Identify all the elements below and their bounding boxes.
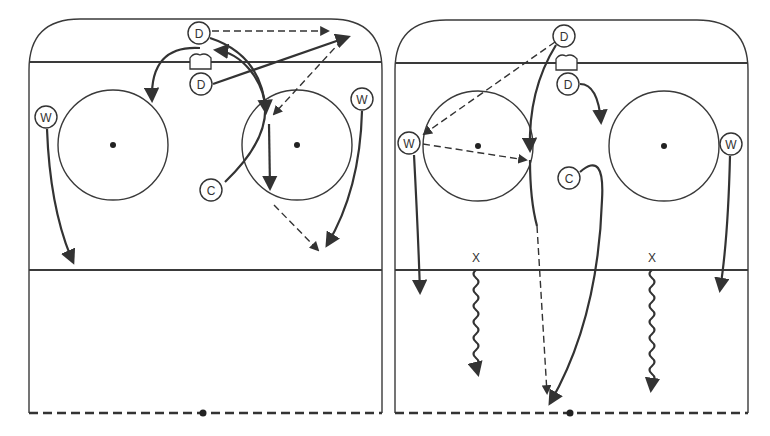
left-player-d-1: D bbox=[190, 73, 212, 95]
left-player-w-3: W bbox=[351, 88, 373, 110]
right-x-mark-0: X bbox=[472, 251, 480, 265]
right-x-mark-1: X bbox=[648, 251, 656, 265]
player-label: W bbox=[725, 138, 737, 152]
left-faceoff-dot-1 bbox=[110, 142, 116, 148]
left-skate-w-left bbox=[47, 129, 73, 262]
left-skate-d-to-corner bbox=[213, 37, 348, 84]
right-player-c-4: C bbox=[558, 167, 580, 189]
player-label: W bbox=[356, 93, 368, 107]
right-player-d-1: D bbox=[557, 73, 579, 95]
player-label: D bbox=[560, 30, 569, 44]
left-skate-c-loop bbox=[216, 50, 265, 182]
right-wavy-skate-2 bbox=[650, 270, 655, 390]
right-player-d-0: D bbox=[553, 25, 575, 47]
right-skate-d-curl bbox=[580, 84, 601, 122]
right-faceoff-dot-2 bbox=[661, 143, 667, 149]
right-skate-d-continue bbox=[530, 160, 537, 226]
right-skate-c-long bbox=[550, 165, 602, 403]
left-center-dot bbox=[200, 410, 207, 417]
left-player-w-2: W bbox=[35, 106, 57, 128]
right-pass-long bbox=[537, 226, 547, 393]
right-pass-d-to-w bbox=[424, 42, 555, 134]
right-skate-w-left bbox=[414, 155, 420, 292]
left-skate-w-right bbox=[327, 111, 362, 245]
player-label: C bbox=[207, 184, 216, 198]
left-player-d-0: D bbox=[188, 22, 210, 44]
player-label: D bbox=[197, 78, 206, 92]
player-label: W bbox=[403, 137, 415, 151]
right-faceoff-dot-1 bbox=[475, 143, 481, 149]
left-pass-to-wing bbox=[274, 205, 318, 250]
right-center-dot bbox=[567, 410, 574, 417]
player-label: D bbox=[195, 27, 204, 41]
left-player-c-4: C bbox=[200, 179, 222, 201]
player-label: D bbox=[564, 78, 573, 92]
right-player-w-3: W bbox=[720, 133, 742, 155]
right-pass-w-across bbox=[423, 144, 526, 160]
players-layer: DDWWCDDWWCXX bbox=[35, 22, 742, 265]
right-player-w-2: W bbox=[398, 132, 420, 154]
left-faceoff-dot-2 bbox=[294, 142, 300, 148]
left-skate-down-through-circle bbox=[269, 124, 270, 188]
hockey-drill-diagram: DDWWCDDWWCXX bbox=[0, 0, 770, 436]
right-skate-d-down bbox=[530, 45, 556, 150]
player-label: C bbox=[565, 172, 574, 186]
left-goal-net-icon bbox=[190, 54, 211, 69]
right-goal-net-icon bbox=[556, 55, 577, 70]
right-wavy-skate-1 bbox=[474, 270, 479, 374]
player-label: W bbox=[40, 111, 52, 125]
